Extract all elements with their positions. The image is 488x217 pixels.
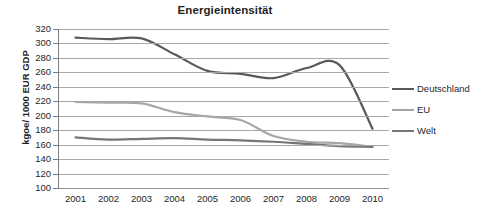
x-tick-label: 2007 xyxy=(257,194,291,204)
legend-swatch-icon xyxy=(392,88,414,90)
gridline xyxy=(59,43,389,44)
legend-label: Welt xyxy=(417,126,436,136)
y-tick-mark xyxy=(53,72,58,73)
y-tick-mark xyxy=(53,29,58,30)
y-tick-mark xyxy=(53,116,58,117)
y-tick-label: 100 xyxy=(25,183,51,193)
gridline xyxy=(59,58,389,59)
x-tick-label: 2001 xyxy=(59,194,93,204)
y-tick-label: 180 xyxy=(25,125,51,135)
x-tick-label: 2002 xyxy=(92,194,126,204)
gridline xyxy=(59,29,389,30)
x-tick-label: 2008 xyxy=(290,194,324,204)
y-tick-label: 160 xyxy=(25,140,51,150)
legend-label: Deutschland xyxy=(417,84,470,94)
series-lines xyxy=(59,29,389,188)
gridline xyxy=(59,87,389,88)
y-tick-mark xyxy=(53,145,58,146)
x-tick-label: 2005 xyxy=(191,194,225,204)
y-tick-mark xyxy=(53,159,58,160)
x-tick-label: 2010 xyxy=(356,194,390,204)
chart-legend: DeutschlandEUWelt xyxy=(392,78,488,141)
gridline xyxy=(59,116,389,117)
legend-item-eu[interactable]: EU xyxy=(392,99,488,120)
legend-label: EU xyxy=(417,105,430,115)
y-tick-mark xyxy=(53,58,58,59)
gridline xyxy=(59,145,389,146)
y-tick-mark xyxy=(53,188,58,189)
legend-swatch-icon xyxy=(392,130,414,132)
legend-item-welt[interactable]: Welt xyxy=(392,120,488,141)
x-axis-tick-labels: 2001200220032004200520062007200820092010 xyxy=(59,194,389,210)
y-tick-label: 140 xyxy=(25,154,51,164)
y-tick-label: 240 xyxy=(25,82,51,92)
y-axis-tick-labels: 320300280260240220200180160140120100 xyxy=(18,0,51,217)
chart-title: Energieintensität xyxy=(60,4,390,16)
legend-swatch-icon xyxy=(392,109,414,111)
y-tick-label: 200 xyxy=(25,111,51,121)
x-tick-label: 2006 xyxy=(224,194,258,204)
x-tick-label: 2003 xyxy=(125,194,159,204)
gridline xyxy=(59,130,389,131)
y-tick-label: 300 xyxy=(25,38,51,48)
y-tick-mark xyxy=(53,43,58,44)
gridline xyxy=(59,101,389,102)
gridline xyxy=(59,174,389,175)
legend-item-deutschland[interactable]: Deutschland xyxy=(392,78,488,99)
y-tick-mark xyxy=(53,130,58,131)
gridline xyxy=(59,72,389,73)
plot-area xyxy=(59,29,389,188)
gridline xyxy=(59,188,389,189)
gridline xyxy=(59,159,389,160)
y-tick-mark xyxy=(53,174,58,175)
y-tick-label: 120 xyxy=(25,169,51,179)
y-tick-mark xyxy=(53,101,58,102)
x-tick-label: 2009 xyxy=(323,194,357,204)
y-tick-label: 320 xyxy=(25,24,51,34)
y-tick-label: 280 xyxy=(25,53,51,63)
energy-intensity-chart: Energieintensität kgoe/ 1000 EUR GDP 320… xyxy=(0,0,488,217)
y-tick-mark xyxy=(53,87,58,88)
y-tick-label: 260 xyxy=(25,67,51,77)
x-tick-label: 2004 xyxy=(158,194,192,204)
y-tick-label: 220 xyxy=(25,96,51,106)
